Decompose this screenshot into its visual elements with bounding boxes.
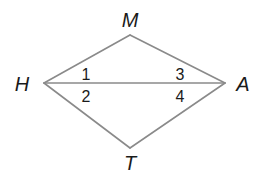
edges	[44, 35, 225, 148]
vertex-label-m: M	[122, 9, 139, 31]
vertex-label-h: H	[15, 73, 30, 95]
angle-labels: 1 2 3 4	[82, 66, 185, 105]
rhombus-diagram: H M A T 1 2 3 4	[0, 0, 255, 177]
angle-label-3: 3	[176, 66, 185, 83]
vertex-label-a: A	[235, 73, 249, 95]
angle-label-1: 1	[82, 66, 91, 83]
vertex-labels: H M A T	[15, 9, 250, 174]
angle-label-2: 2	[82, 88, 91, 105]
angle-label-4: 4	[176, 88, 185, 105]
vertex-label-t: T	[124, 152, 138, 174]
